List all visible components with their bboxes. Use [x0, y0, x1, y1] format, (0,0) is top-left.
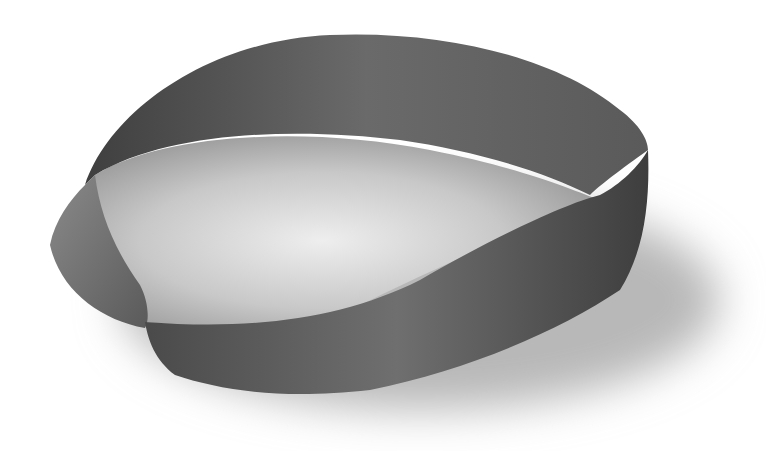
mobius-strip-illustration: [0, 0, 766, 451]
